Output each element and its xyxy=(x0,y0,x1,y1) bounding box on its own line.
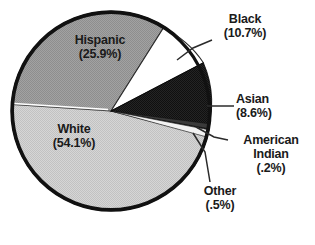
slice-label-asian-name: Asian xyxy=(236,92,312,106)
slice-label-other: Other (.5%) xyxy=(189,184,251,212)
slice-label-black-value: (10.7%) xyxy=(208,26,282,40)
slice-label-white-value: (54.1%) xyxy=(32,136,116,150)
slice-label-hispanic: Hispanic (25.9%) xyxy=(58,33,142,61)
slice-label-american-indian-value: (.2%) xyxy=(228,161,314,175)
slice-label-white: White (54.1%) xyxy=(32,122,116,150)
slice-label-black-name: Black xyxy=(208,12,282,26)
slice-label-american-indian-name-line2: Indian xyxy=(228,147,314,161)
slice-label-american-indian-name-line1: American xyxy=(228,133,314,147)
pie-chart-figure: Hispanic (25.9%) White (54.1%) Black (10… xyxy=(0,0,315,245)
slice-label-asian: Asian (8.6%) xyxy=(236,92,312,120)
slice-label-white-name: White xyxy=(32,122,116,136)
slice-label-hispanic-name: Hispanic xyxy=(58,33,142,47)
slice-label-black: Black (10.7%) xyxy=(208,12,282,40)
slice-label-hispanic-value: (25.9%) xyxy=(58,47,142,61)
slice-label-american-indian: American Indian (.2%) xyxy=(228,133,314,175)
slice-label-other-value: (.5%) xyxy=(189,198,251,212)
slice-label-asian-value: (8.6%) xyxy=(236,106,312,120)
slice-label-other-name: Other xyxy=(189,184,251,198)
